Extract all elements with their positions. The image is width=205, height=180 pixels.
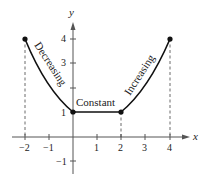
x-tick-label: −2 bbox=[19, 142, 30, 153]
point bbox=[70, 109, 75, 114]
constant-label: Constant bbox=[76, 96, 115, 108]
y-tick-label: 4 bbox=[61, 33, 66, 44]
y-tick-label: −1 bbox=[56, 156, 67, 167]
chart-canvas: x y −2 −1 1 2 3 4 4 3 1 −1 bbox=[0, 0, 205, 180]
point bbox=[22, 36, 27, 41]
y-tick-label: 3 bbox=[61, 57, 66, 68]
x-tick-label: 4 bbox=[167, 142, 172, 153]
y-axis-arrow-icon bbox=[71, 22, 76, 30]
x-tick-label: 2 bbox=[118, 142, 123, 153]
x-axis-arrow-icon bbox=[182, 135, 190, 140]
point bbox=[167, 36, 172, 41]
x-tick-label: 1 bbox=[94, 142, 99, 153]
x-axis-label: x bbox=[192, 130, 198, 142]
y-axis-label: y bbox=[68, 6, 74, 18]
x-tick-label: −1 bbox=[43, 142, 54, 153]
x-tick-label: 3 bbox=[142, 142, 147, 153]
point bbox=[118, 109, 123, 114]
y-tick-label: 1 bbox=[61, 107, 66, 118]
